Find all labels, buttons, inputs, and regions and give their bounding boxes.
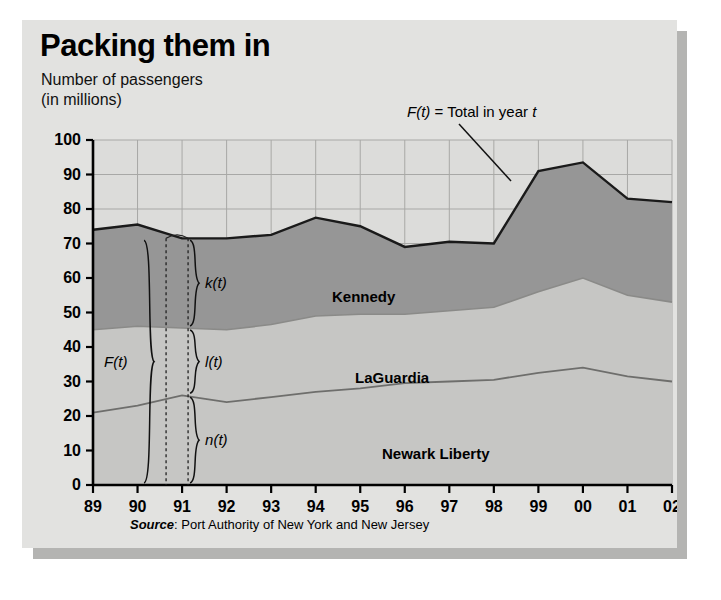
total-callout-text: F(t) = Total in year t bbox=[407, 103, 537, 120]
x-axis-ticks: 8990919293949596979899000102 bbox=[84, 485, 677, 515]
x-tick-label: 94 bbox=[307, 498, 325, 515]
y-tick-label: 80 bbox=[63, 200, 81, 217]
y-tick-label: 20 bbox=[63, 407, 81, 424]
x-tick-label: 92 bbox=[218, 498, 236, 515]
x-tick-label: 96 bbox=[396, 498, 414, 515]
y-tick-label: 90 bbox=[63, 166, 81, 183]
y-tick-label: 50 bbox=[63, 304, 81, 321]
panel-shadow-right bbox=[677, 31, 687, 559]
x-tick-label: 93 bbox=[262, 498, 280, 515]
brace-label-total: F(t) bbox=[104, 353, 127, 370]
y-tick-label: 40 bbox=[63, 338, 81, 355]
y-tick-label: 60 bbox=[63, 269, 81, 286]
y-tick-label: 0 bbox=[72, 476, 81, 493]
y-axis-ticks: 0102030405060708090100 bbox=[54, 131, 93, 493]
x-tick-label: 89 bbox=[84, 498, 102, 515]
source-note: Source: Port Authority of New York and N… bbox=[130, 517, 429, 532]
plot-area: 0102030405060708090100 89909192939495969… bbox=[22, 20, 677, 548]
x-tick-label: 99 bbox=[529, 498, 547, 515]
panel-shadow-bottom bbox=[33, 548, 687, 559]
brace-label-newark: n(t) bbox=[205, 431, 228, 448]
band-label-laguardia: LaGuardia bbox=[355, 369, 430, 386]
source-text: : Port Authority of New York and New Jer… bbox=[174, 517, 429, 532]
y-tick-label: 100 bbox=[54, 131, 81, 148]
x-tick-label: 00 bbox=[574, 498, 592, 515]
stacked-area-chart: 0102030405060708090100 89909192939495969… bbox=[22, 20, 677, 548]
x-tick-label: 01 bbox=[619, 498, 637, 515]
band-label-kennedy: Kennedy bbox=[332, 288, 396, 305]
x-tick-label: 02 bbox=[663, 498, 677, 515]
x-tick-label: 98 bbox=[485, 498, 503, 515]
x-tick-label: 95 bbox=[351, 498, 369, 515]
y-tick-label: 10 bbox=[63, 442, 81, 459]
x-tick-label: 91 bbox=[173, 498, 191, 515]
x-tick-label: 90 bbox=[129, 498, 147, 515]
x-tick-label: 97 bbox=[440, 498, 458, 515]
band-label-newark: Newark Liberty bbox=[382, 445, 490, 462]
brace-label-kennedy: k(t) bbox=[205, 274, 227, 291]
y-tick-label: 30 bbox=[63, 373, 81, 390]
source-word: Source bbox=[130, 517, 174, 532]
chart-panel: Packing them in Number of passengers (in… bbox=[22, 20, 677, 548]
brace-label-laguardia: l(t) bbox=[205, 353, 223, 370]
y-tick-label: 70 bbox=[63, 235, 81, 252]
